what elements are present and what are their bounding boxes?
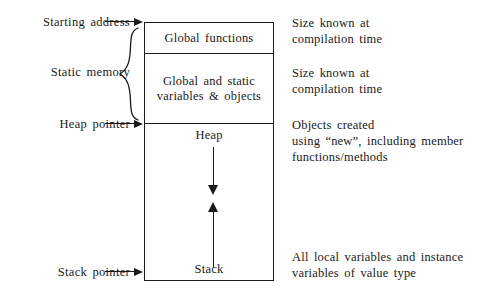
arrow-shaft (105, 21, 136, 22)
region-label-heap: Heap (145, 128, 273, 143)
arrow-right-stack-pointer-icon (105, 267, 143, 277)
arrow-up-stack-growth-icon (208, 202, 219, 268)
annotation-stack: All local variables and instance variabl… (292, 249, 490, 281)
curly-brace-static-memory-icon (118, 27, 140, 121)
region-label-global-functions: Global functions (165, 31, 254, 46)
label-static-memory: Static memory (8, 65, 130, 80)
arrow-shaft (105, 271, 136, 272)
arrow-shaft (213, 147, 214, 187)
annotation-heap: Objects created using “new”, including m… (292, 117, 490, 165)
arrow-head (208, 185, 218, 195)
annotation-static-variables: Size known at compilation time (292, 65, 487, 97)
memory-region-heap: Heap Stack (145, 124, 273, 280)
arrow-down-heap-growth-icon (208, 147, 219, 195)
arrow-shaft (105, 123, 136, 124)
memory-layout-diagram: Starting address Static memory Heap poin… (0, 0, 491, 298)
curly-brace-shape (118, 27, 140, 121)
arrow-head (134, 18, 143, 26)
arrow-right-starting-address-icon (105, 17, 143, 27)
memory-region-global-functions: Global functions (145, 23, 273, 54)
arrow-shaft (213, 211, 214, 268)
region-label-static-variables: Global and static variables & objects (151, 74, 267, 104)
arrow-head (134, 268, 143, 276)
annotation-global-functions: Size known at compilation time (292, 15, 487, 47)
region-label-stack: Stack (145, 262, 273, 277)
memory-region-static-variables: Global and static variables & objects (145, 54, 273, 124)
memory-box: Global functions Global and static varia… (144, 22, 274, 281)
